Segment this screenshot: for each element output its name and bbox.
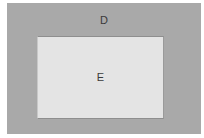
- outer-box-label: D: [7, 14, 201, 26]
- inner-box-label: E: [38, 71, 163, 83]
- diagram-canvas: D E: [0, 0, 204, 138]
- inner-box-e: E: [37, 36, 164, 119]
- outer-box-d: D E: [7, 3, 201, 134]
